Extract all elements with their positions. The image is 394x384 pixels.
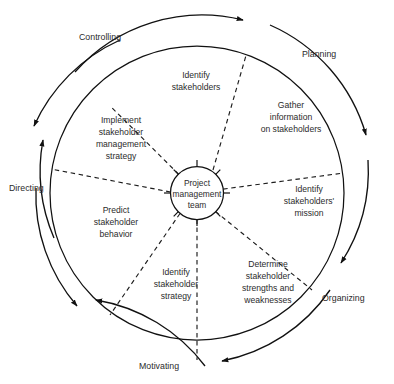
center-line-2: management [173, 189, 223, 199]
sector-line: mission [294, 208, 323, 218]
arrow-directing-down [36, 188, 77, 306]
sector-line: management [96, 139, 147, 149]
sector-line: stakeholders' [284, 196, 335, 206]
sector-line: Identify [162, 267, 190, 277]
spoke-right-upper [223, 173, 343, 189]
sector-line: strategy [161, 291, 192, 301]
outer-label-planning: Planning [302, 49, 336, 59]
sector-line: Predict [103, 205, 130, 215]
sector-line: weaknesses [243, 295, 291, 305]
sector-line: on stakeholders [261, 124, 322, 134]
sector-identify-stakeholders: Identify stakeholders [172, 70, 221, 92]
stakeholder-management-wheel: Controlling Planning Organizing Motivati… [0, 0, 394, 384]
sector-gather-information: Gather information on stakeholders [261, 100, 322, 134]
sector-line: Implement [101, 115, 142, 125]
outer-label-directing: Directing [9, 183, 44, 193]
arrow-to-organizing [341, 160, 368, 263]
sector-line: information [270, 112, 313, 122]
sector-implement-management-strategy: Implement stakeholder management strateg… [96, 115, 147, 161]
arrow-controlling-to-planning [75, 15, 243, 72]
spoke-upper-right [213, 56, 246, 171]
sector-line: stakeholder [246, 271, 291, 281]
sector-line: Gather [278, 100, 304, 110]
sector-line: Identify [295, 184, 323, 194]
outer-label-motivating: Motivating [139, 361, 179, 371]
sector-line: stakeholders [172, 82, 221, 92]
sector-line: behavior [100, 229, 133, 239]
sector-line: stakeholder [99, 127, 144, 137]
sector-identify-stakeholders-mission: Identify stakeholders' mission [284, 184, 335, 218]
sector-line: strategy [106, 151, 137, 161]
center-line-1: Project [184, 178, 211, 188]
center-line-3: team [188, 200, 207, 210]
arrow-to-controlling [34, 40, 120, 126]
sector-line: stakeholder [154, 279, 199, 289]
sector-line: Identify [182, 70, 210, 80]
sector-identify-stakeholder-strategy: Identify stakeholder strategy [154, 267, 199, 301]
sector-line: strengths and [242, 283, 294, 293]
outer-label-organizing: Organizing [322, 293, 365, 303]
sector-line: Determine [248, 259, 288, 269]
outer-label-controlling: Controlling [79, 32, 121, 42]
sector-predict-stakeholder-behavior: Predict stakeholder behavior [94, 205, 139, 239]
sector-line: stakeholder [94, 217, 139, 227]
spoke-left [51, 169, 171, 192]
sector-determine-strengths-weaknesses: Determine stakeholder strengths and weak… [242, 259, 294, 305]
